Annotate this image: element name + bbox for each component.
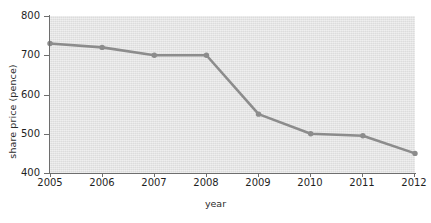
data-point: [308, 131, 313, 136]
data-point: [99, 45, 104, 50]
data-point: [256, 111, 261, 116]
series-line-share-price: [50, 16, 415, 173]
data-point: [152, 53, 157, 58]
y-tick-label: 600: [6, 90, 40, 100]
x-tick-label: 2012: [390, 178, 431, 188]
line-chart: share price (pence) 800 700 600 500 400 …: [0, 0, 431, 223]
plot-area: [50, 16, 415, 173]
y-tick-label: 700: [6, 50, 40, 60]
x-tick-label: 2006: [78, 178, 126, 188]
x-tick-label: 2011: [338, 178, 386, 188]
data-point: [204, 53, 209, 58]
x-axis-title: year: [0, 198, 431, 209]
x-tick-label: 2008: [182, 178, 230, 188]
y-axis-line: [49, 15, 50, 174]
data-point: [412, 151, 417, 156]
x-tick-label: 2007: [130, 178, 178, 188]
series-markers: [47, 41, 417, 156]
series-polyline: [50, 43, 415, 153]
x-axis-tick-labels: 2005 2006 2007 2008 2009 2010 2011 2012: [0, 178, 431, 192]
y-tick-label: 500: [6, 129, 40, 139]
x-tick-label: 2005: [26, 178, 74, 188]
data-point: [360, 133, 365, 138]
x-tick-label: 2010: [286, 178, 334, 188]
x-tick-label: 2009: [234, 178, 282, 188]
y-tick-label: 800: [6, 11, 40, 21]
